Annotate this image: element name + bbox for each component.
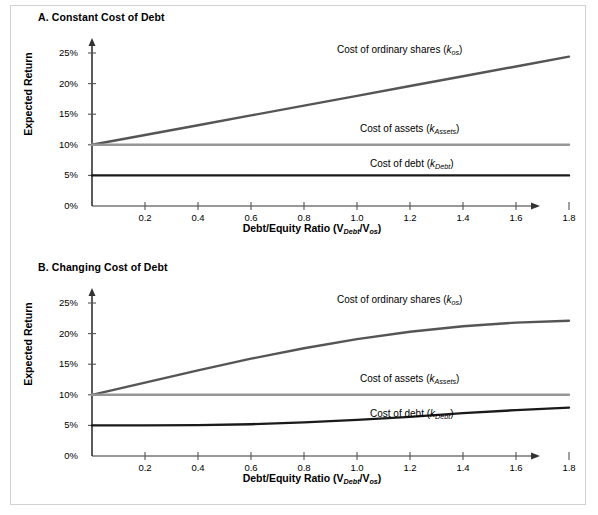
x-tick-label: 0.6 — [234, 212, 268, 223]
x-tick-label: 1.4 — [446, 212, 480, 223]
panel-a-label-cost-of-debt: Cost of debt (kDebt) — [370, 158, 454, 171]
x-tick-label: 1.8 — [552, 462, 586, 473]
x-tick-label: 0.8 — [287, 212, 321, 223]
x-tick-label: 0.8 — [287, 462, 321, 473]
panel-changing-cost-of-debt: B. Changing Cost of Debt Expected Return… — [0, 250, 598, 510]
x-tick-label: 0.2 — [128, 462, 162, 473]
y-tick-label: 10% — [44, 139, 78, 150]
y-tick-label: 25% — [44, 47, 78, 58]
x-tick-label: 0.2 — [128, 212, 162, 223]
series-line — [92, 408, 569, 426]
x-tick-label: 0.4 — [181, 462, 215, 473]
x-tick-label: 1.4 — [446, 462, 480, 473]
x-axis-arrowhead — [531, 203, 540, 210]
y-axis-arrowhead — [89, 288, 96, 296]
panel-b-label-cost-of-assets: Cost of assets (kAssets) — [360, 373, 459, 386]
y-tick-label: 25% — [44, 297, 78, 308]
x-tick-label: 1.2 — [393, 462, 427, 473]
figure-root: A. Constant Cost of Debt Expected Return… — [0, 0, 598, 515]
panel-a-label-cost-of-ordinary-shares: Cost of ordinary shares (kos) — [337, 44, 462, 57]
x-tick-label: 0.4 — [181, 212, 215, 223]
panel-b-label-cost-of-debt: Cost of debt (kDebt) — [370, 408, 454, 421]
y-tick-label: 0% — [44, 450, 78, 461]
panel-a-x-axis-title: Debt/Equity Ratio (VDebt/Vos) — [92, 222, 532, 236]
x-tick-label: 1.6 — [499, 462, 533, 473]
series-line — [92, 321, 569, 395]
x-tick-label: 1.2 — [393, 212, 427, 223]
panel-constant-cost-of-debt: A. Constant Cost of Debt Expected Return… — [0, 0, 598, 255]
y-axis-arrowhead — [89, 38, 96, 46]
y-tick-label: 5% — [44, 419, 78, 430]
x-tick-label: 1.0 — [340, 212, 374, 223]
x-tick-label: 1.0 — [340, 462, 374, 473]
y-tick-label: 10% — [44, 389, 78, 400]
y-tick-label: 15% — [44, 358, 78, 369]
y-tick-label: 15% — [44, 108, 78, 119]
panel-b-label-cost-of-ordinary-shares: Cost of ordinary shares (kos) — [337, 294, 462, 307]
series-line — [92, 57, 569, 145]
y-tick-label: 5% — [44, 169, 78, 180]
y-tick-label: 20% — [44, 78, 78, 89]
x-axis-arrowhead — [531, 453, 540, 460]
x-tick-label: 1.8 — [552, 212, 586, 223]
x-tick-label: 0.6 — [234, 462, 268, 473]
panel-b-x-axis-title: Debt/Equity Ratio (VDebt/Vos) — [92, 472, 532, 486]
y-tick-label: 20% — [44, 328, 78, 339]
panel-a-label-cost-of-assets: Cost of assets (kAssets) — [360, 123, 459, 136]
y-tick-label: 0% — [44, 200, 78, 211]
x-tick-label: 1.6 — [499, 212, 533, 223]
